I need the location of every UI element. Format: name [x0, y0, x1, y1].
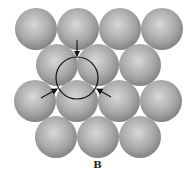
sphere-r1-c2	[57, 8, 99, 50]
figure-label: B	[0, 159, 195, 170]
sphere-r4-c3	[119, 116, 161, 158]
sphere-r1-c1	[15, 8, 57, 50]
sphere-r1-c4	[141, 8, 183, 50]
sphere-r3-c1	[14, 80, 56, 122]
sphere-r3-c4	[140, 80, 182, 122]
sphere-r3-c3	[98, 80, 140, 122]
sphere-r2-c3	[119, 44, 161, 86]
sphere-r1-c3	[99, 8, 141, 50]
sphere-r2-c1	[36, 44, 78, 86]
sphere-r4-c1	[35, 116, 77, 158]
sphere-layer	[14, 8, 183, 158]
sphere-r3-c2	[56, 80, 98, 122]
sphere-r4-c2	[77, 116, 119, 158]
sphere-packing-diagram	[0, 0, 195, 179]
